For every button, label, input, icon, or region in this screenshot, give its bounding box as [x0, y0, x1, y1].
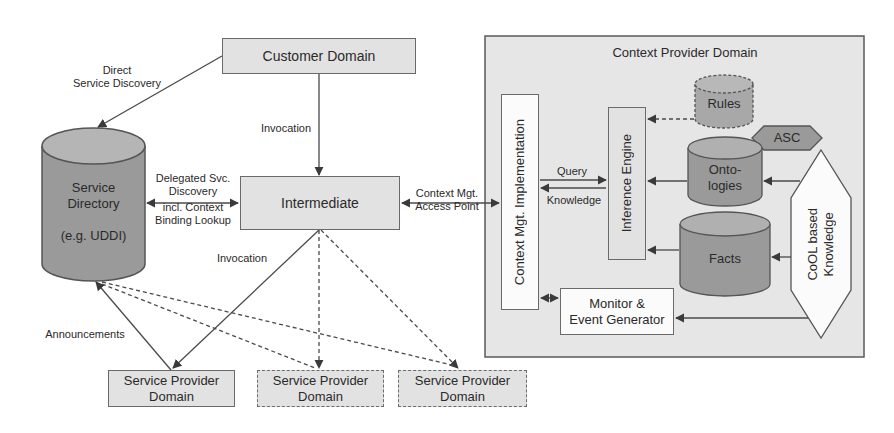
context-mgt-implementation-label: Context Mgt. Implementation — [512, 119, 528, 285]
direct-discovery-label: Direct Service Discovery — [62, 64, 172, 90]
invocation-bottom-label: Invocation — [212, 252, 272, 265]
context-access-point-label: Context Mgt. Access Point — [408, 187, 486, 213]
rules-label: Rules — [695, 96, 753, 112]
invocation-top-label: Invocation — [256, 122, 316, 135]
edge-dashed-sp3 — [321, 230, 458, 368]
monitor-event-generator-box: Monitor & Event Generator — [560, 288, 674, 335]
ontologies-label: Onto- logies — [688, 162, 762, 194]
intermediate-label: Intermediate — [281, 195, 359, 212]
facts-label: Facts — [680, 251, 770, 267]
inference-engine-box: Inference Engine — [608, 107, 646, 260]
service-provider-domain-3: Service Provider Domain — [398, 370, 527, 407]
cool-knowledge-label: CoOL based Knowledge — [791, 170, 851, 318]
delegated-discovery-label: Delegated Svc. Discovery incl. Context B… — [148, 172, 238, 227]
customer-domain-box: Customer Domain — [222, 38, 416, 74]
knowledge-label: Knowledge — [542, 194, 606, 207]
asc-label: ASC — [760, 130, 814, 146]
service-directory-label: Service Directory (e.g. UDDI) — [42, 180, 145, 244]
intermediate-box: Intermediate — [240, 176, 400, 230]
context-provider-domain-title: Context Provider Domain — [575, 45, 795, 61]
customer-domain-label: Customer Domain — [263, 48, 376, 65]
service-provider-domain-1: Service Provider Domain — [108, 370, 235, 407]
edge-invocation-bottom — [173, 230, 319, 368]
inference-engine-label: Inference Engine — [619, 134, 635, 232]
context-mgt-implementation-box: Context Mgt. Implementation — [501, 94, 539, 310]
announcements-label: Announcements — [40, 328, 130, 341]
query-label: Query — [552, 165, 592, 178]
service-provider-domain-2: Service Provider Domain — [257, 370, 384, 407]
